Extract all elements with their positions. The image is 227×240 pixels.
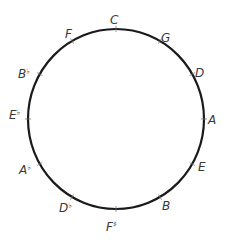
diagram-svg: CGDAEBF♯D♭A♭E♭B♭F	[0, 0, 227, 240]
tick-marks	[25, 26, 207, 212]
note-label-d-flat: D♭	[59, 201, 72, 215]
note-label-d: D	[195, 66, 204, 80]
note-label-e: E	[198, 160, 206, 174]
note-label-c: C	[110, 13, 119, 27]
note-label-a: A	[207, 113, 216, 127]
note-label-f: F	[65, 27, 73, 41]
note-label-e-flat: E♭	[9, 108, 21, 122]
note-label-b: B	[162, 199, 170, 213]
note-label-a-flat: A♭	[18, 163, 31, 177]
circle-of-fifths-diagram: CGDAEBF♯D♭A♭E♭B♭F	[0, 0, 227, 240]
note-label-b-flat: B♭	[18, 67, 30, 81]
note-label-f-sharp: F♯	[106, 220, 117, 234]
circle-outline	[28, 29, 204, 209]
note-label-g: G	[161, 31, 170, 45]
note-labels: CGDAEBF♯D♭A♭E♭B♭F	[9, 13, 216, 234]
